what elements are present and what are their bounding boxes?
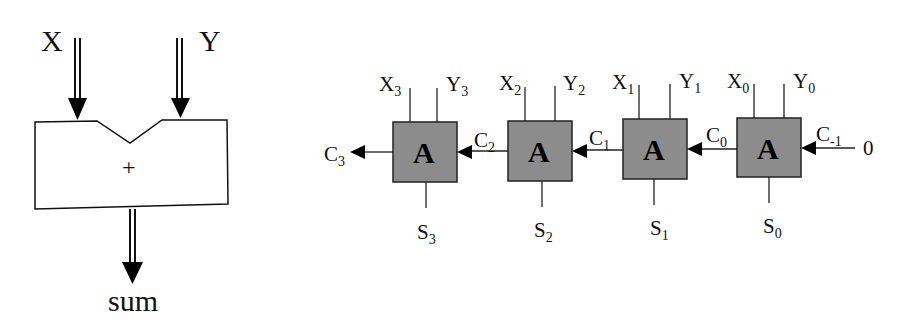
x-input-label: X <box>41 26 63 56</box>
block-label-1: A <box>643 135 665 165</box>
sum-wires <box>426 177 769 208</box>
block-label-3: A <box>413 138 435 168</box>
sum-output-arrow <box>122 209 143 284</box>
y0-label: Y0 <box>793 71 815 96</box>
s0-label: S0 <box>763 216 782 241</box>
x-input-arrow <box>68 38 87 120</box>
block-label-0: A <box>757 134 779 164</box>
c2-label: C2 <box>474 130 495 155</box>
y1-label: Y1 <box>679 71 701 96</box>
x0-label: X0 <box>727 71 749 96</box>
x3-label: X3 <box>379 74 401 99</box>
y-input-arrow <box>171 38 190 118</box>
plus-operator: + <box>122 155 136 179</box>
carry-in-zero: 0 <box>863 138 874 159</box>
sum-output-label: sum <box>108 286 158 316</box>
c1-label: C1 <box>589 128 610 153</box>
y-input-label: Y <box>199 26 221 56</box>
s1-label: S1 <box>650 218 669 243</box>
s2-label: S2 <box>534 220 553 245</box>
block-label-2: A <box>528 137 550 167</box>
y2-label: Y2 <box>563 73 585 98</box>
c0-label: C0 <box>706 125 727 150</box>
c3-label: C3 <box>324 144 345 169</box>
c-1-label: C-1 <box>816 124 842 149</box>
y3-label: Y3 <box>446 74 468 99</box>
s3-label: S3 <box>417 222 436 247</box>
x2-label: X2 <box>499 73 521 98</box>
x1-label: X1 <box>612 72 634 97</box>
